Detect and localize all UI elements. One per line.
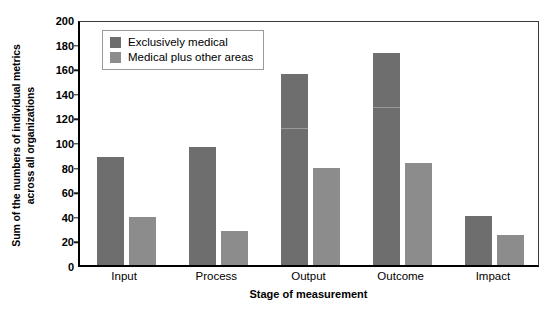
bar-output-series-0 (281, 74, 308, 265)
bar-group (281, 22, 340, 265)
legend-label-series-0: Exclusively medical (128, 36, 228, 49)
y-axis-tick-label: 60 (62, 188, 74, 199)
y-axis-tick-label: 0 (68, 262, 74, 273)
bar-impact-series-1 (497, 235, 524, 265)
x-axis-tick-label-process: Process (196, 269, 238, 283)
bar-output-series-1 (313, 168, 340, 265)
y-axis-title-line-2: across all organizations (23, 44, 37, 247)
y-axis-tick-label: 20 (62, 237, 74, 248)
y-axis-tick-label: 140 (56, 89, 74, 100)
y-axis-tick-label: 40 (62, 212, 74, 223)
bar-outcome-series-1 (405, 163, 432, 265)
legend-entry-medical-plus-other-areas: Medical plus other areas (110, 50, 253, 65)
y-axis-title-line-1: Sum of the numbers of individual metrics (10, 44, 24, 247)
legend-label-series-1: Medical plus other areas (128, 51, 253, 64)
bar-chart-figure: Sum of the numbers of individual metrics… (0, 0, 551, 320)
bar-group (465, 22, 524, 265)
x-axis-tick-label-outcome: Outcome (377, 269, 424, 283)
y-axis-ticks: 020406080100120140160180200 (46, 0, 78, 320)
x-axis-tick-label-output: Output (291, 269, 326, 283)
x-axis-tick-label-input: Input (111, 269, 137, 283)
y-axis-tick-label: 200 (56, 16, 74, 27)
legend-entry-exclusively-medical: Exclusively medical (110, 35, 253, 50)
bar-outcome-series-0 (373, 53, 400, 265)
scan-artifact-line (281, 128, 308, 129)
legend-swatch-icon-series-0 (110, 37, 121, 48)
bar-input-series-1 (129, 217, 156, 265)
x-axis-title: Stage of measurement (78, 288, 539, 301)
y-axis-title: Sum of the numbers of individual metrics… (0, 0, 46, 290)
bar-process-series-1 (221, 231, 248, 265)
chart-legend: Exclusively medical Medical plus other a… (102, 30, 264, 70)
bar-group (373, 22, 432, 265)
bar-impact-series-0 (465, 216, 492, 265)
x-axis-tick-label-impact: Impact (476, 269, 511, 283)
plot-area: Exclusively medical Medical plus other a… (78, 21, 539, 267)
y-axis-tick-label: 80 (62, 163, 74, 174)
legend-swatch-icon-series-1 (110, 52, 121, 63)
scan-artifact-line (373, 107, 400, 108)
x-axis-tick-labels: InputProcessOutputOutcomeImpact (78, 269, 539, 287)
y-axis-tick-label: 120 (56, 114, 74, 125)
bar-process-series-0 (189, 147, 216, 265)
y-axis-tick-label: 160 (56, 65, 74, 76)
bar-input-series-0 (97, 157, 124, 265)
y-axis-tick-label: 180 (56, 40, 74, 51)
y-axis-tick-label: 100 (56, 139, 74, 150)
